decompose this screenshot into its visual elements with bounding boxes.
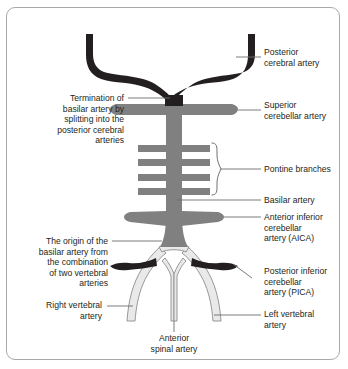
anterior-spinal-artery (162, 258, 186, 321)
label-right-vertebral-artery: Right vertebral artery (18, 300, 102, 321)
label-posterior-cerebral-artery: Posterior cerebral artery (264, 47, 344, 68)
figure-root: Posterior cerebral artery Superior cereb… (0, 0, 348, 369)
pontine-brace (212, 143, 221, 195)
anterior-spinal-artery-right-limb (174, 258, 186, 321)
pontine-branch-right-4 (138, 188, 168, 195)
label-origin-of-basilar-artery: The origin of the basilar artery from th… (14, 236, 108, 289)
anterior-spinal-artery-left-limb (162, 258, 174, 321)
label-basilar-artery: Basilar artery (264, 195, 346, 206)
label-termination-of-basilar-artery: Termination of basilar artery by splitti… (18, 93, 124, 146)
basilar-bifurcation-apex (165, 95, 183, 106)
label-anterior-spinal-artery: Anterior spinal artery (134, 333, 214, 354)
posterior-inferior-cerebellar-arteries (110, 258, 238, 270)
posterior-cerebral-artery-right (86, 34, 170, 100)
leader-pica (233, 264, 252, 278)
label-aica: Anterior inferior cerebellar artery (AIC… (264, 212, 346, 244)
pontine-branch-left-3 (180, 174, 210, 181)
label-pica: Posterior inferior cerebellar artery (PI… (264, 266, 346, 298)
pontine-branch-right-2 (138, 159, 168, 166)
label-pontine-branches: Pontine branches (264, 164, 346, 175)
posterior-cerebral-artery-left (168, 34, 255, 100)
superior-cerebellar-artery-left (181, 104, 238, 115)
label-superior-cerebellar-artery: Superior cerebellar artery (264, 100, 346, 121)
pontine-branch-left-4 (180, 188, 210, 195)
aica-left (181, 211, 224, 226)
label-left-vertebral-artery: Left vertebral artery (264, 309, 344, 330)
pontine-branch-right-1 (138, 145, 168, 152)
left-vertebral-artery (182, 247, 221, 321)
right-vertebral-artery (127, 247, 166, 321)
pontine-branch-left-2 (180, 159, 210, 166)
pontine-branch-left-1 (180, 145, 210, 152)
aica-right (124, 211, 167, 226)
pontine-branch-right-3 (138, 174, 168, 181)
